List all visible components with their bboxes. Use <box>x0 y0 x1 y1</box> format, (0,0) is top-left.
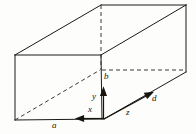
figure-container: a b d x y z <box>0 0 196 134</box>
edge-top-right-slant <box>101 5 186 55</box>
label-axis-x: x <box>88 105 92 114</box>
label-axis-y: y <box>92 92 96 101</box>
box-diagram-svg <box>0 0 196 134</box>
edge-front-bottom <box>15 119 104 120</box>
hidden-edges-group <box>15 5 186 120</box>
label-edge-b: b <box>104 72 109 81</box>
label-edge-a: a <box>52 121 57 130</box>
edge-top-left-slant <box>15 5 101 55</box>
label-axis-z: z <box>126 108 130 117</box>
label-edge-d: d <box>152 94 157 103</box>
axis-x-arrowhead <box>77 116 84 121</box>
